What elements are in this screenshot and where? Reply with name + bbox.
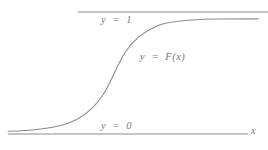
x-axis-label: x: [251, 126, 256, 137]
upper-asymptote-label: y = 1: [101, 15, 132, 26]
sigmoid-curve: [8, 19, 258, 131]
figure-canvas: [0, 0, 268, 150]
sigmoid-cdf-figure: y = 1 y = F(x) y = 0 x: [0, 0, 268, 150]
curve-function-label: y = F(x): [140, 52, 185, 63]
lower-asymptote-label: y = 0: [101, 121, 132, 132]
